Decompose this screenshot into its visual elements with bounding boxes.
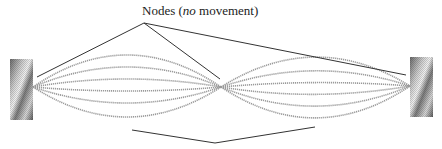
standing-wave-diagram <box>0 0 442 149</box>
leader-line-middle-node <box>144 23 220 79</box>
string-strand <box>33 87 221 91</box>
node-leader-lines <box>37 23 406 79</box>
string-strand <box>221 86 410 94</box>
right-wall <box>410 57 433 117</box>
leader-line-left-node <box>37 23 144 77</box>
nodes-label-italic: no <box>183 3 196 18</box>
string-strand <box>33 79 221 87</box>
nodes-label-prefix: Nodes ( <box>142 3 183 18</box>
string-strand <box>221 83 410 87</box>
nodes-label: Nodes (no movement) <box>142 3 258 19</box>
nodes-label-suffix: movement) <box>196 3 258 18</box>
antinode-bracket <box>132 127 315 143</box>
left-wall <box>10 59 33 120</box>
